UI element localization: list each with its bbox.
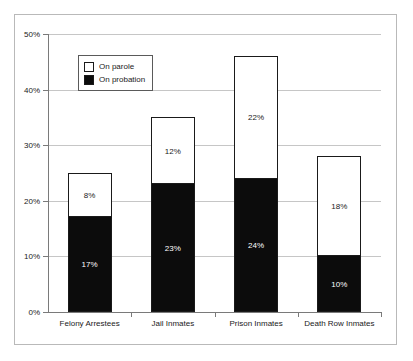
bar-segment-label-on-parole: 8%	[69, 191, 111, 200]
bar-segment-on-parole: 12%	[151, 117, 195, 184]
bar-segment-on-probation: 23%	[151, 183, 195, 312]
chart-legend: On parole On probation	[78, 55, 153, 91]
bar-segment-on-probation: 24%	[234, 178, 278, 312]
legend-swatch-on-probation	[84, 75, 94, 85]
bar-segment-label-on-parole: 18%	[318, 202, 360, 211]
bar-segment-on-parole: 18%	[317, 156, 361, 256]
bar-segment-label-on-parole: 12%	[152, 146, 194, 155]
chart-frame: 0%10%20%30%40%50% 8%17%12%23%22%24%18%10…	[14, 14, 397, 345]
bar-segment-label-on-probation: 10%	[318, 279, 360, 288]
y-axis-tick-label: 10%	[15, 252, 40, 261]
x-axis-tick-mark	[131, 312, 132, 317]
bar-segment-on-parole: 8%	[68, 173, 112, 217]
legend-label-on-probation: On probation	[99, 75, 145, 84]
y-axis-tick-label: 0%	[15, 308, 40, 317]
bar-segment-label-on-probation: 23%	[152, 243, 194, 252]
bar-segment-on-probation: 10%	[317, 255, 361, 312]
stacked-bar: 22%24%	[234, 56, 278, 312]
x-axis-tick-mark	[381, 312, 382, 317]
y-axis-tick-label: 20%	[15, 197, 40, 206]
legend-item-on-parole: On parole	[84, 60, 145, 73]
bar-segment-label-on-probation: 24%	[235, 240, 277, 249]
x-axis-category-label: Jail Inmates	[131, 319, 214, 329]
stacked-bar: 18%10%	[317, 156, 361, 312]
bar-segment-on-parole: 22%	[234, 56, 278, 178]
bar-segment-label-on-parole: 22%	[235, 113, 277, 122]
stacked-bar: 12%23%	[151, 117, 195, 312]
y-axis-tick-label: 30%	[15, 141, 40, 150]
stacked-bar: 8%17%	[68, 173, 112, 312]
legend-label-on-parole: On parole	[99, 62, 134, 71]
bar-segment-on-probation: 17%	[68, 216, 112, 312]
x-axis-tick-mark	[215, 312, 216, 317]
y-axis-tick-label: 50%	[15, 30, 40, 39]
y-axis-tick-label: 40%	[15, 86, 40, 95]
x-axis-category-label: Felony Arrestees	[48, 319, 131, 329]
bar-segment-label-on-probation: 17%	[69, 260, 111, 269]
x-axis-category-label: Death Row Inmates	[298, 319, 381, 329]
legend-swatch-on-parole	[84, 62, 94, 72]
x-axis-tick-mark	[298, 312, 299, 317]
legend-item-on-probation: On probation	[84, 73, 145, 86]
x-axis-category-label: Prison Inmates	[215, 319, 298, 329]
